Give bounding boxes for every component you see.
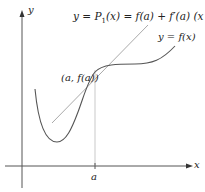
tangent-line-diagram	[0, 0, 205, 192]
tangent-eq-prefix: y =	[73, 10, 94, 22]
tick-label-a: a	[91, 172, 97, 182]
y-axis-label: y	[28, 5, 34, 15]
function-curve	[35, 46, 175, 142]
x-axis-label: x	[194, 160, 200, 170]
x-axis-arrow-icon	[186, 164, 193, 169]
tangent-equation: y = P1(x) = f(a) + f′(a) (x − a)	[73, 11, 205, 25]
point-label: (a, f(a))	[61, 73, 99, 83]
tangent-eq-rest: (x) = f(a) + f′(a) (x − a)	[106, 10, 205, 22]
y-axis-arrow-icon	[20, 10, 25, 17]
curve-label: y = f(x)	[158, 32, 196, 42]
